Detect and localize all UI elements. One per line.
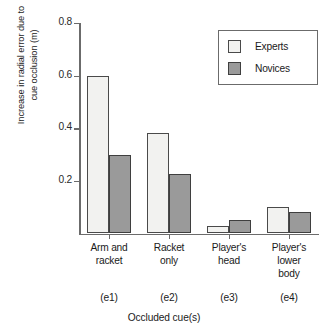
category-label-line: Player's [251, 241, 327, 254]
x-axis-title: Occluded cue(s) [0, 312, 328, 323]
y-axis-line [79, 23, 81, 235]
category-code-e3: (e3) [204, 292, 254, 303]
y-axis-tick-label: 0.8 [38, 16, 72, 27]
y-axis-tick [74, 181, 79, 182]
bar-experts-e4 [267, 207, 289, 233]
bar-novices-e2 [169, 174, 191, 233]
bar-chart-figure: Increase in radial error due to cue occl… [0, 0, 328, 332]
y-axis-title-line-1: Increase in radial error due to [15, 0, 28, 155]
legend: Experts Novices [218, 30, 318, 85]
y-axis-tick [74, 128, 79, 129]
category-code-e2: (e2) [144, 292, 194, 303]
bar-novices-e1 [109, 155, 131, 234]
legend-label-experts: Experts [255, 41, 288, 52]
x-axis-tick [229, 234, 230, 239]
legend-swatch-experts [228, 40, 241, 53]
bar-experts-e2 [147, 133, 169, 233]
legend-item-novices: Novices [228, 60, 290, 77]
category-label-line: body [251, 267, 327, 280]
legend-swatch-novices [228, 62, 241, 75]
bar-novices-e4 [289, 212, 311, 233]
x-axis-line [79, 234, 319, 236]
category-label-line: lower [251, 254, 327, 267]
category-code-e1: (e1) [84, 292, 134, 303]
legend-item-experts: Experts [228, 38, 288, 55]
category-label-e4: Player'slowerbody [251, 241, 327, 281]
x-axis-tick [169, 234, 170, 239]
bar-experts-e1 [87, 76, 109, 234]
x-axis-tick [109, 234, 110, 239]
y-axis-tick [74, 23, 79, 24]
y-axis-tick-label: 0.4 [38, 121, 72, 132]
bar-novices-e3 [229, 220, 251, 233]
legend-label-novices: Novices [255, 63, 290, 74]
y-axis-tick-label: 0.6 [38, 69, 72, 80]
y-axis-tick-label: 0.2 [38, 174, 72, 185]
x-axis-tick [289, 234, 290, 239]
category-code-e4: (e4) [264, 292, 314, 303]
bar-experts-e3 [207, 226, 229, 234]
y-axis-tick [74, 76, 79, 77]
